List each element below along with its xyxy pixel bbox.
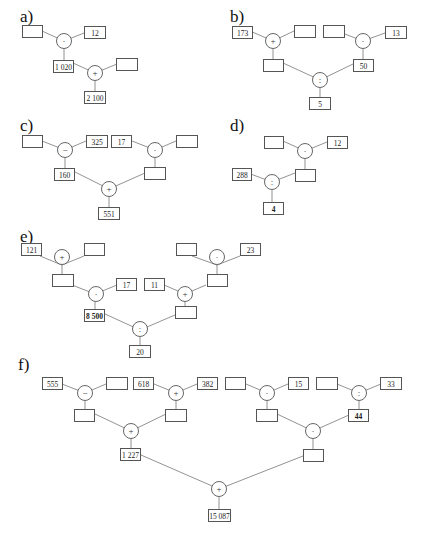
puzzle-label-a: a) — [20, 8, 33, 25]
operator-circle: + — [168, 385, 184, 401]
operator-circle: + — [87, 65, 103, 81]
operator-circle: · — [147, 142, 163, 158]
input-box[interactable] — [264, 136, 284, 149]
operator-circle: · — [305, 423, 321, 439]
input-box[interactable] — [263, 59, 284, 72]
input-box[interactable] — [294, 25, 316, 38]
input-box[interactable] — [176, 243, 197, 256]
input-box[interactable] — [84, 243, 105, 256]
operator-circle: : — [264, 174, 280, 190]
puzzle-label-c: c) — [20, 117, 33, 134]
number-box: 1 020 — [53, 60, 74, 73]
result-box: 4 — [263, 202, 284, 215]
operator-circle: : — [132, 321, 148, 337]
number-box: 325 — [86, 135, 108, 148]
input-box[interactable] — [165, 409, 187, 422]
input-box[interactable] — [22, 25, 43, 38]
operator-circle: · — [88, 286, 104, 302]
operator-circle: + — [101, 181, 117, 197]
input-box[interactable] — [303, 449, 324, 462]
input-box[interactable] — [116, 58, 138, 71]
operator-circle: · — [209, 249, 225, 265]
operator-circle: − — [77, 385, 93, 401]
number-box: 173 — [232, 26, 253, 39]
result-box: 15 087 — [208, 509, 231, 522]
input-box[interactable] — [22, 135, 43, 148]
number-box: 121 — [21, 243, 42, 256]
operator-circle: + — [211, 481, 227, 497]
input-box[interactable] — [144, 167, 166, 180]
operator-circle: · — [56, 33, 72, 49]
number-box: 12 — [327, 136, 348, 149]
result-box: 5 — [309, 97, 331, 110]
input-box[interactable] — [175, 306, 197, 319]
number-box: 1 227 — [120, 448, 141, 461]
number-box: 50 — [353, 59, 374, 72]
input-box[interactable] — [323, 25, 345, 38]
operator-circle: + — [265, 33, 281, 49]
number-box: 23 — [240, 243, 261, 256]
input-box[interactable] — [256, 409, 278, 422]
puzzle-label-f: f) — [18, 356, 29, 373]
operator-circle: · — [259, 385, 275, 401]
number-box: 15 — [288, 377, 309, 390]
input-box[interactable] — [207, 274, 228, 287]
result-box: 20 — [129, 345, 151, 358]
number-box: 33 — [380, 377, 402, 390]
input-box[interactable] — [316, 377, 338, 390]
input-box[interactable] — [176, 135, 198, 148]
result-box: 2 100 — [84, 91, 106, 104]
number-box: 8 500 — [84, 309, 105, 322]
operator-circle: + — [177, 286, 193, 302]
number-box: 288 — [232, 168, 252, 181]
input-box[interactable] — [74, 409, 95, 422]
number-box: 17 — [116, 278, 137, 291]
operator-circle: + — [54, 249, 70, 265]
operator-circle: · — [355, 33, 371, 49]
result-box: 551 — [98, 207, 120, 220]
operator-circle: − — [57, 142, 73, 158]
connector-lines — [0, 0, 429, 546]
input-box[interactable] — [106, 377, 128, 390]
number-box: 44 — [348, 409, 369, 422]
puzzle-label-b: b) — [230, 8, 244, 25]
input-box[interactable] — [295, 169, 316, 182]
puzzle-label-d: d) — [230, 117, 244, 134]
number-box: 618 — [133, 377, 154, 390]
number-box: 13 — [385, 26, 407, 39]
number-box: 382 — [197, 377, 218, 390]
operator-circle: : — [351, 385, 367, 401]
number-box: 160 — [54, 168, 75, 181]
number-box: 17 — [111, 135, 132, 148]
input-box[interactable] — [52, 274, 74, 287]
number-box: 11 — [144, 278, 165, 291]
number-box: 555 — [42, 377, 63, 390]
input-box[interactable] — [225, 377, 246, 390]
operator-circle: : — [312, 72, 328, 88]
operator-circle: · — [297, 143, 313, 159]
operator-circle: + — [123, 423, 139, 439]
number-box: 12 — [84, 26, 106, 39]
